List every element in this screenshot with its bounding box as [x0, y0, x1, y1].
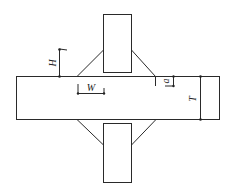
weld-joint-diagram: T H W a: [0, 0, 228, 193]
a-dimension-end-top: [172, 75, 174, 77]
weld-top-left: [77, 50, 104, 77]
t-dimension-end-top: [199, 75, 202, 78]
weld-bottom-right: [132, 120, 157, 146]
t-label: T: [187, 95, 198, 102]
t-dimension-end-bottom: [199, 118, 202, 121]
h-dimension-end-top: [58, 48, 61, 51]
h-label: H: [47, 59, 58, 68]
weld-top-right: [132, 50, 156, 77]
a-dimension-end-bottom: [172, 85, 174, 87]
diagram-canvas: T H W a: [0, 0, 228, 193]
weld-bottom-left: [77, 120, 104, 146]
top-vertical-plate: [104, 15, 132, 73]
h-dimension-end-bottom: [58, 75, 61, 78]
a-label: a: [160, 79, 171, 84]
w-dimension-end-right: [103, 92, 105, 94]
bottom-vertical-plate: [104, 124, 132, 183]
w-dimension-end-left: [77, 92, 79, 94]
w-label: W: [87, 82, 97, 93]
